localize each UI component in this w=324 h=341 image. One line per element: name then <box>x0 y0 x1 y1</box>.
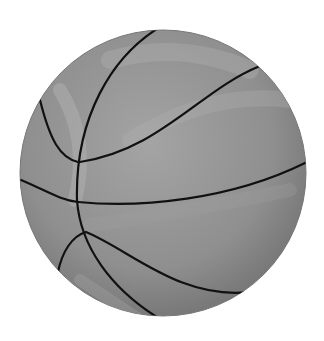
basketball-icon <box>0 0 324 341</box>
